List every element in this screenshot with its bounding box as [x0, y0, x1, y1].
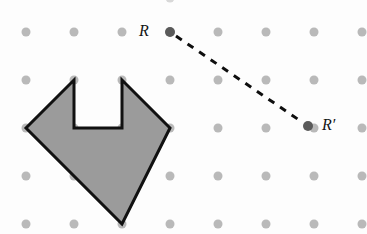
grid-dot	[262, 172, 271, 181]
grid-dot	[214, 28, 223, 37]
grid-dot	[22, 172, 31, 181]
grid-dot	[214, 220, 223, 229]
grid-dot	[262, 124, 271, 133]
grid-dot	[358, 220, 367, 229]
grid-dot	[214, 124, 223, 133]
grid-dot	[166, 220, 175, 229]
grid-dot	[262, 76, 271, 85]
grid-dot	[166, 172, 175, 181]
grid-dot	[358, 124, 367, 133]
grid-dot	[22, 28, 31, 37]
grid-dot	[262, 220, 271, 229]
geometry-figure: R R′	[0, 0, 367, 234]
grid-dot	[310, 76, 319, 85]
grid-dot	[358, 76, 367, 85]
point-R-label: R	[138, 22, 149, 39]
point-R-prime-label: R′	[321, 116, 336, 133]
grid-dot	[310, 172, 319, 181]
grid-dot	[310, 220, 319, 229]
figure-canvas: R R′	[0, 0, 367, 234]
grid-dot	[70, 220, 79, 229]
grid-dot	[358, 172, 367, 181]
grid-dot	[358, 28, 367, 37]
grid-dot	[22, 220, 31, 229]
point-R-prime	[303, 121, 313, 131]
grid-dot	[118, 28, 127, 37]
grid-dot	[262, 28, 271, 37]
grid-dot	[22, 76, 31, 85]
grid-dot	[70, 28, 79, 37]
grid-dot	[214, 172, 223, 181]
grid-dot	[310, 28, 319, 37]
point-R	[165, 27, 175, 37]
grid-dot	[214, 76, 223, 85]
grid-dot	[166, 76, 175, 85]
